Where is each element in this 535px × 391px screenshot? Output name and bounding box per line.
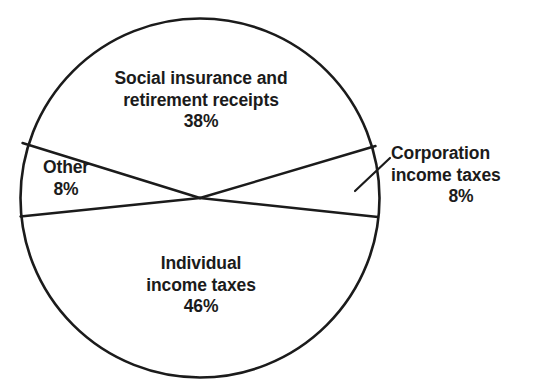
- slice-label-social-insurance: Social insurance and retirement receipts…: [73, 68, 329, 133]
- slice-value-corporation: 8%: [391, 186, 531, 208]
- slice-label-individual-line2: income taxes: [94, 275, 308, 297]
- slice-label-individual-line1: Individual: [94, 253, 308, 275]
- slice-label-corporation: Corporation income taxes 8%: [391, 143, 531, 208]
- slice-value-individual: 46%: [94, 296, 308, 318]
- slice-label-corporation-line2: income taxes: [391, 165, 531, 187]
- slice-label-social-insurance-line1: Social insurance and: [73, 68, 329, 90]
- slice-label-individual: Individual income taxes 46%: [94, 253, 308, 318]
- slice-label-corporation-line1: Corporation: [391, 143, 531, 165]
- pie-chart-figure: Social insurance and retirement receipts…: [0, 0, 535, 391]
- slice-value-other: 8%: [20, 179, 112, 201]
- slice-label-other-line1: Other: [20, 157, 112, 179]
- slice-value-social-insurance: 38%: [73, 111, 329, 133]
- slice-label-social-insurance-line2: retirement receipts: [73, 90, 329, 112]
- slice-label-other: Other 8%: [20, 157, 112, 200]
